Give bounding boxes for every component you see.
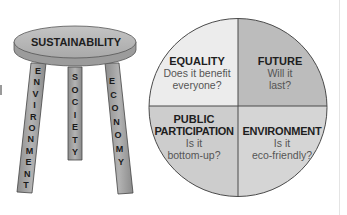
svg-text:R: R: [30, 112, 37, 122]
sustainability-criteria-circle: EQUALITY Does it benefit everyone? FUTUR…: [148, 17, 328, 198]
environment-question-line1: Is it: [239, 137, 325, 149]
equality-text: EQUALITY Does it benefit everyone?: [156, 55, 238, 91]
svg-text:V: V: [33, 89, 39, 99]
public-participation-question-line1: Is it: [148, 137, 240, 149]
svg-text:E: E: [109, 76, 115, 86]
svg-text:O: O: [111, 103, 118, 113]
future-question-line2: last?: [239, 79, 321, 91]
future-question-line1: Will it: [239, 67, 321, 79]
svg-text:N: N: [113, 117, 120, 127]
public-participation-title-line2: PARTICIPATION: [148, 125, 240, 137]
svg-text:O: O: [114, 130, 121, 140]
svg-text:E: E: [35, 66, 41, 76]
public-participation-text: PUBLIC PARTICIPATION Is it bottom-up?: [148, 113, 240, 161]
svg-text:N: N: [24, 169, 31, 179]
environment-question-line2: eco-friendly?: [239, 149, 325, 161]
public-participation-title-line1: PUBLIC: [148, 113, 240, 125]
public-participation-question-line2: bottom-up?: [148, 149, 240, 161]
svg-text:E: E: [25, 157, 31, 167]
svg-text:I: I: [74, 110, 77, 120]
svg-text:E: E: [72, 122, 78, 132]
edge-mark: [0, 85, 2, 95]
future-title: FUTURE: [239, 55, 321, 67]
svg-text:N: N: [34, 77, 41, 87]
right-edge-divider: [339, 0, 340, 215]
equality-question-line1: Does it benefit: [156, 67, 238, 79]
environment-text: ENVIRONMENT Is it eco-friendly?: [239, 125, 325, 161]
stool-drawing: SUSTAINABILITY ENVIRONMENT SOCIETY ECONO…: [0, 0, 140, 215]
svg-text:Y: Y: [118, 157, 124, 167]
svg-text:C: C: [110, 90, 117, 100]
svg-text:M: M: [116, 144, 124, 154]
svg-text:M: M: [26, 146, 34, 156]
svg-text:C: C: [72, 97, 79, 107]
seat-label: SUSTAINABILITY: [31, 36, 122, 48]
svg-text:I: I: [33, 100, 36, 110]
svg-text:O: O: [28, 123, 35, 133]
sustainability-stool: SUSTAINABILITY ENVIRONMENT SOCIETY ECONO…: [0, 0, 140, 215]
equality-title: EQUALITY: [156, 55, 238, 67]
svg-text:O: O: [71, 85, 78, 95]
future-text: FUTURE Will it last?: [239, 55, 321, 91]
environment-title: ENVIRONMENT: [239, 125, 325, 137]
svg-text:S: S: [72, 72, 78, 82]
svg-text:Y: Y: [72, 147, 78, 157]
svg-text:N: N: [28, 134, 35, 144]
equality-question-line2: everyone?: [156, 79, 238, 91]
svg-text:T: T: [23, 180, 29, 190]
circle-drawing: [148, 17, 328, 198]
svg-text:T: T: [72, 135, 78, 145]
